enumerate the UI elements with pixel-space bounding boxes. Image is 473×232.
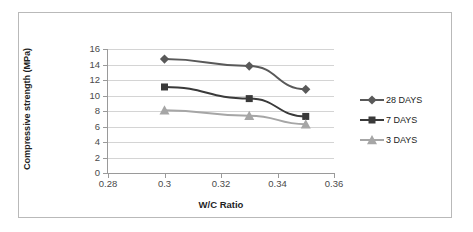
y-axis-tick-labels: 0246810121416 xyxy=(72,0,100,232)
gridline-horizontal xyxy=(108,96,334,97)
x-tick-label: 0.32 xyxy=(201,178,241,189)
legend-swatch-triangle-icon xyxy=(360,134,384,146)
x-tick-mark xyxy=(108,173,109,178)
x-tick-label: 0.3 xyxy=(145,178,185,189)
x-tick-label: 0.34 xyxy=(258,178,298,189)
gridline-horizontal xyxy=(108,49,334,50)
y-tick-mark xyxy=(103,111,108,112)
gridline-horizontal xyxy=(108,65,334,66)
legend-item-2[interactable]: 3 DAYS xyxy=(360,130,444,150)
chart-legend: 28 DAYS 7 DAYS 3 DAYS xyxy=(360,88,444,152)
y-tick-mark xyxy=(103,65,108,66)
y-tick-label: 0 xyxy=(74,168,100,178)
chart-page: Compressive strength (MPa) 0246810121416… xyxy=(0,0,473,232)
legend-item-0[interactable]: 28 DAYS xyxy=(360,90,444,110)
legend-label: 7 DAYS xyxy=(384,115,417,125)
y-tick-label: 4 xyxy=(74,137,100,147)
y-tick-label: 6 xyxy=(74,122,100,132)
x-tick-mark xyxy=(278,173,279,178)
y-tick-label: 16 xyxy=(74,44,100,54)
y-tick-label: 14 xyxy=(74,60,100,70)
legend-label: 28 DAYS xyxy=(384,95,422,105)
y-tick-label: 2 xyxy=(74,153,100,163)
gridline-horizontal xyxy=(108,142,334,143)
gridline-horizontal xyxy=(108,111,334,112)
y-tick-mark xyxy=(103,80,108,81)
x-tick-mark xyxy=(165,173,166,178)
legend-item-1[interactable]: 7 DAYS xyxy=(360,110,444,130)
y-tick-mark xyxy=(103,127,108,128)
legend-swatch-diamond-icon xyxy=(360,94,384,106)
gridline-horizontal xyxy=(108,80,334,81)
x-axis-title: W/C Ratio xyxy=(108,199,334,210)
y-tick-label: 8 xyxy=(74,106,100,116)
y-tick-mark xyxy=(103,142,108,143)
legend-label: 3 DAYS xyxy=(384,135,417,145)
gridline-horizontal xyxy=(108,127,334,128)
plot-area xyxy=(108,49,334,173)
x-tick-mark xyxy=(334,173,335,178)
legend-swatch-square-icon xyxy=(360,114,384,126)
y-tick-label: 10 xyxy=(74,91,100,101)
y-axis-title: Compressive strength (MPa) xyxy=(22,29,32,189)
legend-marker-triangle-icon xyxy=(360,134,384,146)
gridline-horizontal xyxy=(108,158,334,159)
legend-marker-diamond-icon xyxy=(360,94,384,106)
y-tick-mark xyxy=(103,158,108,159)
x-tick-label: 0.28 xyxy=(88,178,128,189)
x-tick-mark xyxy=(221,173,222,178)
y-tick-mark xyxy=(103,96,108,97)
x-tick-label: 0.36 xyxy=(314,178,354,189)
data-point-marker xyxy=(369,117,376,124)
y-tick-mark xyxy=(103,49,108,50)
legend-marker-square-icon xyxy=(360,114,384,126)
data-point-marker xyxy=(367,135,377,144)
data-point-marker xyxy=(367,95,376,104)
y-tick-label: 12 xyxy=(74,75,100,85)
